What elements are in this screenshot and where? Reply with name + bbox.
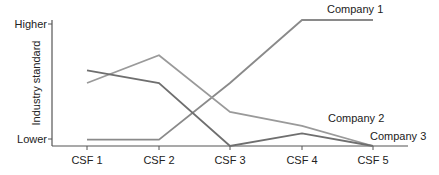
x-tick-label: CSF 1 bbox=[71, 154, 102, 166]
series-label-2: Company 2 bbox=[328, 112, 384, 124]
series-label-1: Company 1 bbox=[327, 3, 383, 15]
x-ticks: CSF 1CSF 2CSF 3CSF 4CSF 5 bbox=[71, 146, 388, 166]
x-tick-label: CSF 2 bbox=[143, 154, 174, 166]
series-line-2 bbox=[87, 55, 373, 146]
series-labels: Company 1Company 2Company 3 bbox=[327, 3, 426, 142]
y-tick-label-lower: Lower bbox=[17, 133, 47, 145]
y-axis-label: Industry standard bbox=[30, 41, 42, 126]
x-tick-label: CSF 4 bbox=[286, 154, 317, 166]
series-lines bbox=[87, 20, 373, 146]
line-chart: Higher Lower Industry standard CSF 1CSF … bbox=[0, 0, 439, 175]
x-tick-label: CSF 3 bbox=[214, 154, 245, 166]
y-tick-label-higher: Higher bbox=[15, 18, 48, 30]
x-tick-label: CSF 5 bbox=[357, 154, 388, 166]
series-label-3: Company 3 bbox=[370, 130, 426, 142]
